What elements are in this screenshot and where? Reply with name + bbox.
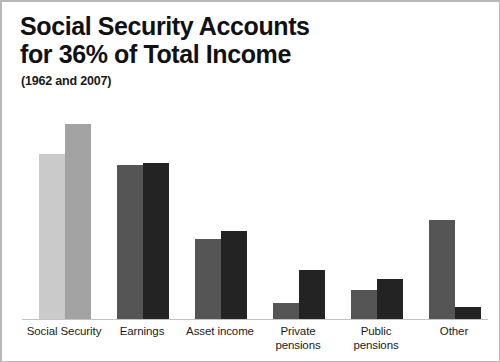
- chart-figure: Social Security Accounts for 36% of Tota…: [0, 0, 500, 362]
- bar-earnings-2007: [143, 163, 169, 319]
- plot-area: [22, 102, 488, 320]
- page-title: Social Security Accounts for 36% of Tota…: [20, 12, 487, 69]
- bar-public-pensions-2007: [377, 279, 403, 319]
- x-tick-other: Other: [406, 324, 500, 338]
- bar-public-pensions-1962: [351, 290, 377, 319]
- bar-earnings-1962: [117, 165, 143, 319]
- bar-other-1962: [429, 220, 455, 319]
- x-axis-labels: Social Security Earnings Asset income Pr…: [22, 324, 488, 358]
- bar-private-pensions-2007: [299, 270, 325, 319]
- bar-other-2007: [455, 307, 481, 319]
- bar-asset-income-2007: [221, 231, 247, 319]
- bar-social-security-1962: [39, 154, 65, 319]
- bar-private-pensions-1962: [273, 303, 299, 319]
- chart-header: Social Security Accounts for 36% of Tota…: [20, 12, 487, 88]
- bar-social-security-2007: [65, 124, 91, 319]
- axis-baseline: [22, 319, 488, 320]
- chart-subtitle: (1962 and 2007): [21, 74, 487, 88]
- bar-asset-income-1962: [195, 239, 221, 319]
